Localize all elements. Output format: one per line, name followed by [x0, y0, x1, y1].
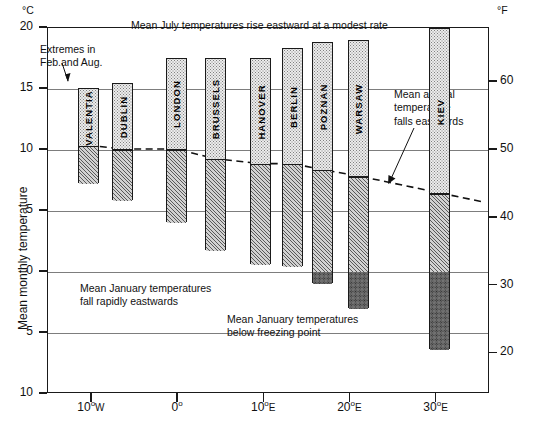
y-tick-mark-f [489, 216, 497, 218]
bar-annual-divider [251, 164, 270, 165]
y-tick-label-f: 50 [500, 141, 530, 155]
y-tick-label-f: 60 [500, 73, 530, 87]
y-tick-label: 0 [7, 263, 33, 277]
y-tick-mark-f [489, 148, 497, 150]
bar-label: DUBLIN [117, 96, 128, 139]
annotation-january-falls: Mean January temperatures fall rapidly e… [80, 282, 211, 309]
y-tick-mark [39, 26, 47, 28]
bar-annual-divider [283, 164, 302, 165]
bar-poznan: POZNAN [312, 42, 333, 284]
bar-segment-january [113, 150, 132, 201]
bar-segment-january [313, 171, 332, 272]
y-tick-label: 10 [7, 141, 33, 155]
annotation-extremes: Extremes in Feb.and Aug. [40, 43, 102, 70]
bar-annual-divider [113, 149, 132, 150]
y-tick-label-f: 30 [500, 277, 530, 291]
bar-segment-below-freezing [430, 272, 449, 350]
bar-annual-divider [206, 159, 225, 160]
bar-annual-divider [79, 146, 98, 147]
chart-root: °C °F Mean monthly temperature 201510505… [0, 0, 541, 425]
bar-annual-divider [349, 176, 368, 177]
bar-annual-divider [430, 193, 449, 194]
bar-segment-january [283, 165, 302, 267]
bar-segment-january [251, 165, 270, 265]
left-axis-unit: °C [22, 4, 34, 16]
bar-label: VALENTIA [83, 90, 94, 146]
right-axis-unit: °F [497, 4, 508, 16]
bar-segment-january [79, 146, 98, 184]
bar-annual-divider [167, 149, 186, 150]
bar-label: BERLIN [287, 86, 298, 128]
x-tick-label: 20oE [337, 399, 361, 414]
y-tick-mark [39, 87, 47, 89]
y-tick-mark [39, 148, 47, 150]
bar-label: LONDON [171, 80, 182, 128]
y-tick-label-f: 40 [500, 209, 530, 223]
bar-label: HANOVER [255, 84, 266, 139]
y-tick-mark-f [489, 80, 497, 82]
bar-hanover: HANOVER [250, 58, 271, 264]
bar-berlin: BERLIN [282, 48, 303, 266]
bar-london: LONDON [166, 58, 187, 223]
y-tick-mark [39, 331, 47, 333]
y-tick-mark-f [489, 284, 497, 286]
y-tick-mark [39, 270, 47, 272]
y-tick-mark [39, 392, 47, 394]
bar-label: KIEV [434, 98, 445, 125]
gridline [48, 272, 488, 273]
y-tick-mark [39, 209, 47, 211]
bar-valentia: VALENTIA [78, 88, 99, 183]
bar-segment-january [349, 177, 368, 272]
bar-label: POZNAN [317, 83, 328, 130]
bar-segment-january [206, 160, 225, 252]
x-tick-label: 30oE [423, 399, 447, 414]
y-tick-label: 15 [7, 80, 33, 94]
y-tick-label-f: 20 [500, 344, 530, 358]
y-tick-mark-f [489, 352, 497, 354]
bar-annual-divider [313, 170, 332, 171]
y-tick-label: 5 [7, 324, 33, 338]
x-tick-label: 10oE [251, 399, 275, 414]
bar-label: WARSAW [353, 84, 364, 134]
bar-segment-january [167, 150, 186, 223]
y-tick-label: 20 [7, 19, 33, 33]
bar-segment-below-freezing [349, 272, 368, 309]
bar-segment-below-freezing [313, 272, 332, 284]
bar-label: BRUSSELS [210, 79, 221, 140]
y-tick-label: 5 [7, 202, 33, 216]
x-tick-label: 0o [172, 399, 183, 414]
annotation-january-freezing: Mean January temperatures below freezing… [227, 313, 358, 340]
y-tick-label: 10 [7, 385, 33, 399]
bar-kiev: KIEV [429, 28, 450, 349]
chart-title: Mean July temperatures rise eastward at … [131, 19, 388, 31]
bar-dublin: DUBLIN [112, 83, 133, 200]
bar-warsaw: WARSAW [348, 40, 369, 307]
x-tick-label: 10oW [77, 399, 104, 414]
bar-segment-january [430, 194, 449, 272]
bar-brussels: BRUSSELS [205, 58, 226, 251]
